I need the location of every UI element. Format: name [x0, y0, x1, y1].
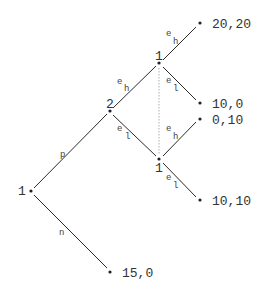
player-label-p2: 2: [106, 97, 114, 112]
payoff-label-4: 10,10: [212, 194, 251, 209]
action-label-p1h-el-base: e: [166, 76, 171, 86]
action-label-p1l-el-sub: l: [173, 181, 178, 191]
payoff-label-2: 10,0: [212, 97, 243, 112]
action-label-p2-eh-base: e: [117, 77, 122, 87]
payoff-label-3: 0,10: [212, 113, 243, 128]
edge-p2-eh: [113, 66, 156, 108]
payoff-label-1: 20,20: [212, 17, 251, 32]
action-label-p1h-eh-base: e: [166, 29, 171, 39]
action-label-p2-el-base: e: [117, 124, 122, 134]
action-label-p2-eh-sub: h: [124, 84, 129, 94]
node-root-dot: [29, 189, 32, 192]
terminal-dot-3: [198, 117, 201, 120]
player-label-p1-high: 1: [155, 49, 163, 64]
action-label-p: p: [60, 150, 65, 160]
terminal-dot-2: [198, 101, 201, 104]
edge-root-n: [34, 195, 107, 268]
terminal-dot-1: [198, 21, 201, 24]
edge-root-p: [34, 114, 107, 188]
terminal-dot-5: [108, 270, 111, 273]
action-label-p1l-el-base: e: [166, 173, 171, 183]
action-label-n: n: [59, 228, 64, 238]
terminal-dot-4: [198, 198, 201, 201]
action-label-p2-el-sub: l: [125, 132, 130, 142]
action-label-p1l-eh-sub: h: [173, 132, 178, 142]
game-tree-diagram: 1 2 1 1 20,20 10,0 0,10 10,10 15,0 p n e…: [0, 0, 267, 297]
action-label-p1l-eh-base: e: [166, 124, 171, 134]
action-label-p1h-eh-sub: h: [173, 37, 178, 47]
action-label-p1h-el-sub: l: [173, 84, 178, 94]
payoff-label-5: 15,0: [122, 266, 153, 281]
player-label-p1-low: 1: [155, 161, 163, 176]
player-label-root: 1: [18, 184, 26, 199]
edge-p2-el: [113, 115, 156, 156]
